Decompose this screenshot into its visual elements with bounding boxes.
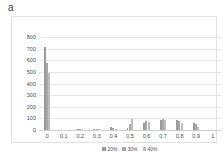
bar — [164, 120, 166, 130]
bar — [197, 127, 199, 130]
y-axis-tick-label: 200 — [27, 104, 36, 110]
legend-item: 40% — [143, 146, 158, 152]
x-axis-tick-label: 0.2 — [77, 132, 85, 140]
panel-label: a — [8, 2, 14, 14]
x-axis-tick-labels: 00.10.20.30.40.50.60.70.80.91 — [39, 132, 221, 142]
y-axis-tick-label: 500 — [27, 69, 36, 75]
figure-panel-a: a 0100200300400500600700800 00.10.20.30.… — [0, 0, 224, 152]
gridline: 0 — [39, 130, 221, 131]
legend-swatch-icon — [143, 147, 147, 151]
bar — [131, 119, 133, 130]
x-axis-tick-label: 0 — [46, 132, 49, 140]
y-axis-tick-label: 700 — [27, 46, 36, 52]
legend-swatch-icon — [122, 147, 126, 151]
bar — [48, 73, 50, 130]
y-axis-tick-label: 800 — [27, 34, 36, 40]
y-axis-tick-label: 100 — [27, 115, 36, 121]
bar — [115, 129, 117, 130]
x-axis-tick-label: 0.3 — [93, 132, 101, 140]
y-axis-tick-label: 0 — [33, 127, 36, 133]
legend-label: 30% — [127, 146, 137, 152]
x-axis-tick-label: 0.5 — [126, 132, 134, 140]
bars-layer — [39, 37, 221, 130]
chart-legend: 20%30%40% — [39, 144, 221, 152]
plot-area: 0100200300400500600700800 — [39, 37, 221, 130]
x-axis-tick-label: 0.1 — [60, 132, 68, 140]
x-axis-tick-label: 0.4 — [110, 132, 118, 140]
x-axis-tick-label: 0.8 — [176, 132, 184, 140]
bar — [148, 122, 150, 130]
y-axis-tick-label: 400 — [27, 81, 36, 87]
x-axis-tick-label: 0.7 — [159, 132, 167, 140]
legend-label: 40% — [148, 146, 158, 152]
legend-item: 30% — [122, 146, 137, 152]
legend-label: 20% — [107, 146, 117, 152]
y-axis-tick-label: 600 — [27, 57, 36, 63]
legend-swatch-icon — [102, 147, 106, 151]
y-axis-tick-label: 300 — [27, 92, 36, 98]
legend-item: 20% — [102, 146, 117, 152]
x-axis-tick-label: 1 — [211, 132, 214, 140]
bar — [98, 129, 100, 130]
x-axis-tick-label: 0.9 — [192, 132, 200, 140]
bar — [82, 129, 84, 130]
x-axis-tick-label: 0.6 — [143, 132, 151, 140]
chart-frame: 0100200300400500600700800 00.10.20.30.40… — [11, 16, 217, 143]
bar — [181, 123, 183, 130]
